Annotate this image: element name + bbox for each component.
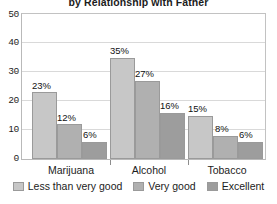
legend-label-very-good: Very good (148, 181, 195, 192)
legend-swatch-icon-less-than-very-good (13, 182, 24, 191)
bar-label-tobacco-0: 15% (188, 104, 207, 114)
legend-label-less-than-very-good: Less than very good (28, 181, 123, 192)
plot-area: 23% 12% 6% 35% 27% 16% 15% 8% 6% (21, 13, 266, 160)
bar-label-alcohol-1: 27% (135, 69, 154, 79)
bar-alcohol-very-good[interactable] (135, 81, 160, 159)
bar-label-marijuana-2: 6% (83, 130, 97, 140)
y-tick-mark-40 (15, 42, 19, 43)
bar-label-marijuana-0: 23% (32, 81, 51, 91)
bar-marijuana-less-than-very-good[interactable] (32, 92, 57, 159)
bar-group-marijuana: 23% 12% 6% (32, 14, 106, 159)
bar-marijuana-very-good[interactable] (57, 124, 82, 159)
bar-chart: by Relationship with Father 50 40 30 20 … (0, 0, 277, 204)
chart-title: by Relationship with Father (0, 0, 277, 8)
y-tick-mark-0 (15, 158, 19, 159)
legend-label-excellent: Excellent (222, 181, 265, 192)
bar-tobacco-less-than-very-good[interactable] (188, 116, 213, 160)
legend-swatch-icon-excellent (207, 182, 218, 191)
y-tick-mark-30 (15, 71, 19, 72)
category-label-alcohol: Alcohol (110, 164, 188, 176)
bar-alcohol-excellent[interactable] (160, 113, 185, 159)
y-tick-mark-10 (15, 129, 19, 130)
bar-label-tobacco-2: 6% (239, 130, 253, 140)
bar-label-alcohol-0: 35% (110, 46, 129, 56)
bar-tobacco-very-good[interactable] (213, 136, 238, 159)
y-axis: 50 40 30 20 10 0 (0, 13, 19, 160)
bar-label-marijuana-1: 12% (57, 113, 76, 123)
bar-group-alcohol: 35% 27% 16% (110, 14, 184, 159)
legend-item-very-good[interactable]: Very good (133, 181, 195, 192)
bar-alcohol-less-than-very-good[interactable] (110, 58, 135, 160)
category-label-tobacco: Tobacco (188, 164, 266, 176)
bar-label-alcohol-2: 16% (160, 101, 179, 111)
chart-legend: Less than very good Very good Excellent (0, 181, 277, 192)
legend-item-less-than-very-good[interactable]: Less than very good (13, 181, 123, 192)
y-tick-mark-20 (15, 100, 19, 101)
chart-title-clip: by Relationship with Father (0, 0, 277, 11)
bar-marijuana-excellent[interactable] (82, 142, 107, 159)
bar-tobacco-excellent[interactable] (238, 142, 263, 159)
bar-label-tobacco-1: 8% (215, 124, 229, 134)
category-label-marijuana: Marijuana (32, 164, 110, 176)
legend-swatch-icon-very-good (133, 182, 144, 191)
y-tick-mark-50 (15, 13, 19, 14)
bar-group-tobacco: 15% 8% 6% (188, 14, 262, 159)
legend-item-excellent[interactable]: Excellent (207, 181, 265, 192)
